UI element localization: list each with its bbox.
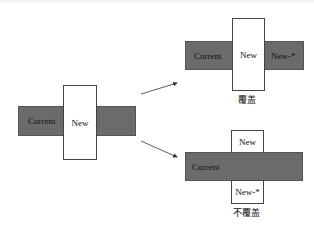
overwrite-new-box: New: [232, 18, 265, 91]
no-overwrite-new-star-label: New-*: [235, 187, 260, 197]
overwrite-new-star-label: New-*: [271, 51, 296, 61]
no-overwrite-new-box: New: [231, 130, 264, 154]
no-overwrite-current-bar: Current: [185, 152, 303, 181]
no-overwrite-caption: 不覆盖: [233, 206, 260, 219]
no-overwrite-current-label: Current: [192, 162, 220, 172]
overwrite-current-label: Current: [194, 51, 222, 61]
overwrite-current-bar: Current: [185, 41, 233, 70]
no-overwrite-new-label: New: [239, 137, 256, 147]
overwrite-new-label: New: [240, 50, 257, 60]
overwrite-caption: 覆盖: [238, 93, 256, 106]
overwrite-new-star-bar: New-*: [264, 41, 304, 70]
no-overwrite-new-star-box: New-*: [231, 180, 264, 204]
arrow-to-overwrite: [141, 83, 177, 94]
arrows: [0, 0, 314, 228]
arrow-to-no-overwrite: [141, 141, 177, 157]
